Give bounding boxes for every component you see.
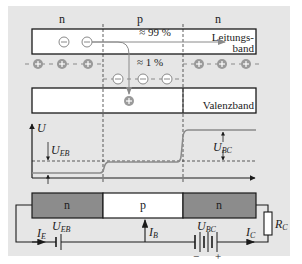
resistor-rc-icon — [264, 212, 272, 235]
region-label-left-n: n — [59, 12, 65, 26]
region-label-right-n: n — [215, 12, 221, 26]
region-label-middle-p: p — [137, 12, 143, 26]
battery-plus-label: + — [215, 250, 221, 262]
electron-icon — [59, 37, 69, 47]
ion-plus-icon — [217, 59, 227, 69]
valence-band-label: Valenzband — [203, 99, 255, 111]
percent-1-label: ≈ 1 % — [137, 56, 163, 68]
base-label: p — [140, 198, 146, 212]
ion-minus-icon — [162, 74, 172, 84]
ion-plus-icon — [194, 59, 204, 69]
conduction-band-label-2: band — [233, 42, 255, 54]
electron-icon — [82, 37, 92, 47]
ion-plus-icon — [241, 59, 251, 69]
collector-label: n — [216, 198, 222, 212]
ion-minus-icon — [138, 74, 148, 84]
emitter-label: n — [64, 198, 70, 212]
hole-icon — [124, 96, 134, 106]
percent-99-label: ≈ 99 % — [139, 26, 171, 38]
ion-plus-icon — [57, 59, 67, 69]
ion-minus-icon — [113, 74, 123, 84]
battery-minus-label: − — [193, 250, 199, 262]
transistor-device: n p n — [32, 193, 256, 218]
ion-plus-icon — [83, 59, 93, 69]
npn-transistor-band-diagram: n p n Leitungs- band Valenzband ≈ 99 % ≈… — [0, 0, 302, 264]
graph-y-axis-label: U — [37, 121, 47, 135]
ion-plus-icon — [33, 59, 43, 69]
